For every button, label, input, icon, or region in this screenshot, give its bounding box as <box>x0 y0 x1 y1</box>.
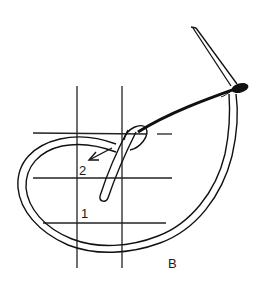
grid-horizontal-top <box>33 133 147 134</box>
stitch-diagram: 2 1 B <box>0 0 260 287</box>
needle-icon <box>191 27 249 94</box>
point-label-1: 1 <box>81 207 88 220</box>
arrow-to-point-2 <box>89 148 112 160</box>
fabric-grid <box>33 86 172 268</box>
thread-loop <box>18 94 237 252</box>
point-label-2: 2 <box>79 164 86 177</box>
thread-tail <box>100 126 147 202</box>
panel-label: B <box>168 257 177 270</box>
working-thread <box>138 88 238 132</box>
